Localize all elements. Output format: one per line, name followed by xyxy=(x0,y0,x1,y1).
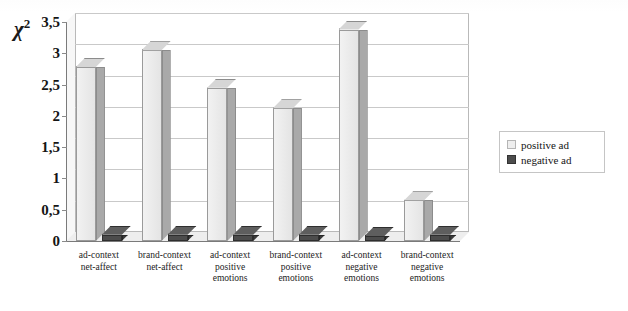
legend-label: negative ad xyxy=(521,154,571,166)
gridline xyxy=(75,76,469,77)
bar-side-face xyxy=(188,235,197,241)
x-category-line: brand-context xyxy=(392,250,462,262)
bar-negative-ad-2 xyxy=(233,226,262,241)
bar-positive-ad-4 xyxy=(339,21,368,241)
x-category-label: ad-contextnet-affect xyxy=(64,250,134,273)
gridline xyxy=(75,44,469,45)
legend-label: positive ad xyxy=(521,139,569,151)
y-tick-mark xyxy=(62,178,67,179)
y-tick-label: 3,5 xyxy=(18,15,60,29)
bar-front-face xyxy=(102,235,122,241)
bar-negative-ad-1 xyxy=(168,226,197,241)
x-category-label: brand-contextnet-affect xyxy=(130,250,200,273)
x-category-line: brand-context xyxy=(130,250,200,262)
legend-item: negative ad xyxy=(507,152,595,167)
bar-front-face xyxy=(299,235,319,241)
bar-negative-ad-0 xyxy=(102,226,131,241)
y-tick-mark xyxy=(62,53,67,54)
bar-front-face xyxy=(233,235,253,241)
bar-side-face xyxy=(253,235,262,241)
x-category-line: emotions xyxy=(195,273,265,285)
y-tick-label: 2 xyxy=(18,109,60,123)
y-tick-mark xyxy=(62,22,67,23)
bar-positive-ad-0 xyxy=(76,58,105,241)
x-axis-line xyxy=(66,241,460,242)
y-tick-label: 0 xyxy=(18,234,60,248)
x-category-label: ad-contextnegativeemotions xyxy=(327,250,397,285)
bar-side-face xyxy=(122,235,131,241)
bar-front-face xyxy=(142,50,162,241)
bar-front-face xyxy=(365,236,385,241)
y-tick-mark xyxy=(62,85,67,86)
x-category-line: emotions xyxy=(327,273,397,285)
y-tick-label: 2,5 xyxy=(18,78,60,92)
bar-negative-ad-5 xyxy=(430,226,459,241)
y-tick-mark xyxy=(62,116,67,117)
x-category-line: emotions xyxy=(261,273,331,285)
bar-front-face xyxy=(207,88,227,241)
y-tick-mark xyxy=(62,147,67,148)
bar-side-face xyxy=(319,235,328,241)
bar-front-face xyxy=(76,67,96,241)
x-category-line: ad-context xyxy=(64,250,134,262)
y-tick-label: 1,5 xyxy=(18,140,60,154)
bar-side-face xyxy=(227,88,236,241)
x-category-line: net-affect xyxy=(130,262,200,274)
x-category-label: brand-contextnegativeemotions xyxy=(392,250,462,285)
bar-side-face xyxy=(359,30,368,241)
x-category-line: ad-context xyxy=(327,250,397,262)
bar-side-face xyxy=(385,236,394,241)
y-tick-mark xyxy=(62,241,67,242)
legend-item: positive ad xyxy=(507,137,595,152)
x-category-line: positive xyxy=(261,262,331,274)
legend: positive adnegative ad xyxy=(499,131,605,173)
gridline xyxy=(75,13,469,14)
bar-front-face xyxy=(168,235,188,241)
bar-front-face xyxy=(430,235,450,241)
x-category-line: ad-context xyxy=(195,250,265,262)
x-category-line: positive xyxy=(195,262,265,274)
bar-positive-ad-1 xyxy=(142,41,171,241)
scan-bleed-artifact xyxy=(0,0,628,12)
x-category-line: negative xyxy=(392,262,462,274)
bar-positive-ad-2 xyxy=(207,79,236,241)
legend-swatch-dark xyxy=(507,155,516,164)
bar-negative-ad-3 xyxy=(299,226,328,241)
bar-front-face xyxy=(273,108,293,241)
chart-figure: χ2 00,511,522,533,5 ad-contextnet-affect… xyxy=(0,0,628,311)
x-category-label: ad-contextpositiveemotions xyxy=(195,250,265,285)
x-category-line: negative xyxy=(327,262,397,274)
bar-side-face xyxy=(162,50,171,241)
bar-side-face xyxy=(450,235,459,241)
plot-side-wall xyxy=(66,13,75,241)
bar-side-face xyxy=(293,108,302,241)
x-category-line: brand-context xyxy=(261,250,331,262)
y-tick-mark xyxy=(62,210,67,211)
bar-positive-ad-5 xyxy=(404,191,433,241)
legend-swatch-light xyxy=(507,140,516,149)
y-tick-label: 3 xyxy=(18,46,60,60)
x-category-line: net-affect xyxy=(64,262,134,274)
bar-positive-ad-3 xyxy=(273,99,302,241)
y-tick-label: 1 xyxy=(18,171,60,185)
bar-side-face xyxy=(96,67,105,241)
x-category-line: emotions xyxy=(392,273,462,285)
bar-front-face xyxy=(339,30,359,241)
x-category-label: brand-contextpositiveemotions xyxy=(261,250,331,285)
bar-front-face xyxy=(404,200,424,241)
bar-negative-ad-4 xyxy=(365,227,394,241)
y-tick-label: 0,5 xyxy=(18,203,60,217)
